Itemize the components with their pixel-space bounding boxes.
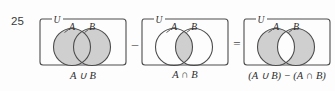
venn-diagram-figure: 25 U A B A ∪ B – <box>0 0 335 91</box>
set-b-label: B <box>89 21 95 32</box>
caption-symmetric-difference: (A ∪ B) − (A ∩ B) <box>239 69 335 81</box>
set-b-label: B <box>191 21 197 32</box>
set-a-label: A <box>68 21 76 32</box>
operator-minus: – <box>128 36 142 52</box>
caption-union: A ∪ B <box>35 69 131 81</box>
venn-panel-symmetric-difference: U A B <box>243 16 331 68</box>
universe-label: U <box>54 15 62 25</box>
caption-intersection: A ∩ B <box>137 69 233 80</box>
set-b-label: B <box>293 21 299 32</box>
set-a-label: A <box>272 21 280 32</box>
venn-panel-intersection: U A B <box>141 16 229 68</box>
operator-equals: = <box>230 36 244 52</box>
exercise-number: 25 <box>11 15 24 27</box>
symmetric-difference-fill <box>243 16 331 68</box>
set-a-label: A <box>170 21 178 32</box>
venn-panel-union: U A B <box>39 16 127 68</box>
universe-label: U <box>156 15 164 25</box>
